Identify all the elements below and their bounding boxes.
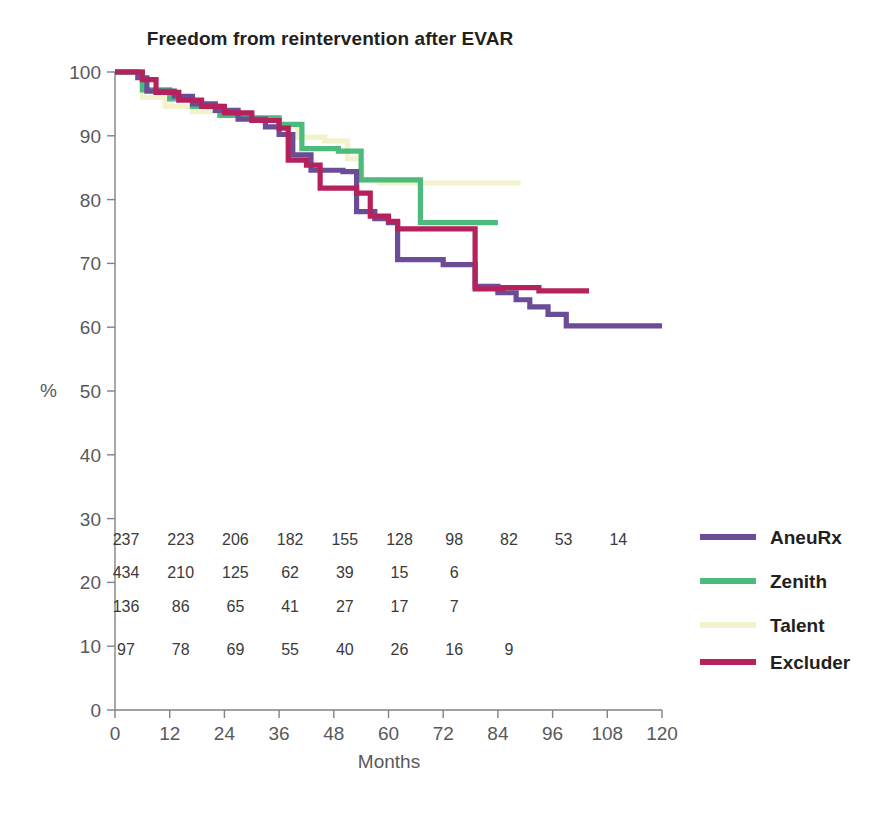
kaplan-meier-figure: Freedom from reintervention after EVAR 0…: [0, 0, 889, 815]
at-risk-count: 15: [391, 564, 409, 581]
y-tick-label: 10: [80, 636, 101, 657]
at-risk-count: 55: [281, 641, 299, 658]
legend-label-talent: Talent: [770, 615, 825, 636]
at-risk-count: 40: [336, 641, 354, 658]
at-risk-count: 136: [113, 598, 140, 615]
at-risk-count: 17: [391, 598, 409, 615]
x-tick-label: 72: [433, 723, 454, 744]
at-risk-count: 210: [167, 564, 194, 581]
x-tick-label: 0: [110, 723, 121, 744]
y-tick-label: 100: [69, 62, 101, 83]
at-risk-count: 182: [277, 531, 304, 548]
x-tick-label: 84: [487, 723, 509, 744]
y-tick-label: 40: [80, 445, 101, 466]
chart-canvas: 0102030405060708090100 01224364860728496…: [0, 0, 889, 815]
chart-legend: AneuRxZenithTalentExcluder: [700, 527, 851, 673]
y-tick-label: 80: [80, 190, 101, 211]
x-tick-label: 36: [269, 723, 290, 744]
at-risk-count: 16: [445, 641, 463, 658]
y-tick-label: 70: [80, 253, 101, 274]
at-risk-count: 82: [500, 531, 518, 548]
at-risk-count: 223: [167, 531, 194, 548]
at-risk-count: 65: [227, 598, 245, 615]
legend-label-zenith: Zenith: [770, 571, 827, 592]
at-risk-count: 26: [391, 641, 409, 658]
y-tick-label: 50: [80, 381, 101, 402]
x-tick-label: 120: [646, 723, 678, 744]
x-axis-title: Months: [358, 751, 420, 772]
at-risk-count: 155: [331, 531, 358, 548]
at-risk-count: 39: [336, 564, 354, 581]
at-risk-count: 53: [555, 531, 573, 548]
at-risk-count: 9: [504, 641, 513, 658]
y-tick-label: 90: [80, 126, 101, 147]
x-tick-label: 12: [159, 723, 180, 744]
at-risk-count: 41: [281, 598, 299, 615]
at-risk-count: 125: [222, 564, 249, 581]
x-tick-label: 24: [214, 723, 236, 744]
at-risk-count: 14: [609, 531, 627, 548]
y-tick-label: 0: [90, 700, 101, 721]
at-risk-count: 27: [336, 598, 354, 615]
y-tick-label: 20: [80, 572, 101, 593]
at-risk-count: 98: [445, 531, 463, 548]
km-curves: [115, 72, 662, 326]
at-risk-count: 86: [172, 598, 190, 615]
y-axis: 0102030405060708090100: [69, 62, 115, 721]
x-tick-label: 60: [378, 723, 399, 744]
legend-label-excluder: Excluder: [770, 652, 851, 673]
y-tick-label: 60: [80, 317, 101, 338]
at-risk-count: 6: [450, 564, 459, 581]
y-axis-title: %: [40, 380, 57, 401]
at-risk-table: 2372232061821551289882531443421012562391…: [113, 531, 628, 658]
x-tick-label: 48: [323, 723, 344, 744]
at-risk-count: 78: [172, 641, 190, 658]
at-risk-count: 69: [227, 641, 245, 658]
x-axis: 01224364860728496108120: [110, 710, 678, 744]
at-risk-count: 237: [113, 531, 140, 548]
at-risk-count: 434: [113, 564, 140, 581]
x-tick-label: 96: [542, 723, 563, 744]
at-risk-count: 128: [386, 531, 413, 548]
at-risk-count: 7: [450, 598, 459, 615]
at-risk-count: 62: [281, 564, 299, 581]
y-tick-label: 30: [80, 509, 101, 530]
legend-label-aneurx: AneuRx: [770, 527, 842, 548]
at-risk-count: 97: [117, 641, 135, 658]
x-tick-label: 108: [591, 723, 623, 744]
at-risk-count: 206: [222, 531, 249, 548]
chart-title: Freedom from reintervention after EVAR: [0, 28, 660, 50]
